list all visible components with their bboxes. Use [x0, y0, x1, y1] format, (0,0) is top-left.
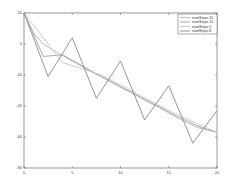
y-tick-label: 0: [20, 41, 23, 46]
legend-label: numSteps 20: [192, 16, 213, 20]
y-tick-label: -20: [16, 72, 23, 77]
x-tick-label: 0: [23, 170, 26, 175]
legend-label: numSteps 10: [192, 20, 213, 24]
legend-label: numSteps 8: [192, 29, 211, 33]
y-tick-label: -40: [16, 103, 23, 108]
y-tick-label: 20: [18, 10, 23, 15]
legend: numSteps 20numSteps 10numSteps 5numSteps…: [178, 14, 217, 34]
y-tick-label: -60: [16, 134, 23, 139]
x-tick-label: 10: [118, 170, 123, 175]
plot-area: [24, 13, 217, 168]
legend-label: numSteps 5: [192, 25, 211, 29]
x-tick-label: 20: [215, 170, 220, 175]
y-tick-label: -80: [16, 165, 23, 170]
line-chart: 05101520200-20-40-60-80 numSteps 20numSt…: [0, 0, 228, 186]
x-tick-label: 5: [71, 170, 74, 175]
x-tick-label: 15: [167, 170, 172, 175]
